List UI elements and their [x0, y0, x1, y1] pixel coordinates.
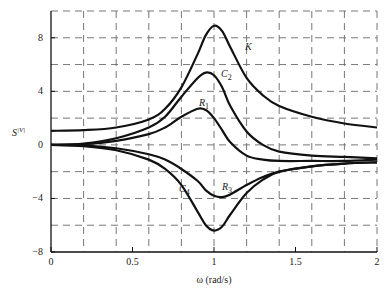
- sensitivity-chart: 840−4−800.511.52 KC2R1R3C4 S|V| ω (rad/s…: [0, 0, 389, 294]
- label-c4: C4: [179, 183, 190, 197]
- x-tick-label: 2: [375, 256, 380, 267]
- y-tick-label: 0: [38, 139, 43, 150]
- y-axis-label: S|V|: [12, 126, 25, 138]
- label-r3: R3: [221, 181, 232, 195]
- y-tick-label: −8: [32, 246, 43, 257]
- y-tick-label: 8: [38, 32, 43, 43]
- x-tick-label: 1: [212, 256, 217, 267]
- x-tick-label: 1.5: [289, 256, 302, 267]
- y-tick-label: 4: [38, 85, 43, 96]
- label-k: K: [244, 41, 253, 52]
- label-c2: C2: [221, 68, 232, 82]
- x-tick-label: 0: [49, 256, 54, 267]
- x-tick-label: 0.5: [126, 256, 139, 267]
- grid-lines: [51, 11, 377, 252]
- x-axis-label: ω (rad/s): [196, 274, 231, 286]
- y-tick-label: −4: [32, 192, 43, 203]
- axes: 840−4−800.511.52: [32, 11, 379, 267]
- curves: [51, 26, 377, 231]
